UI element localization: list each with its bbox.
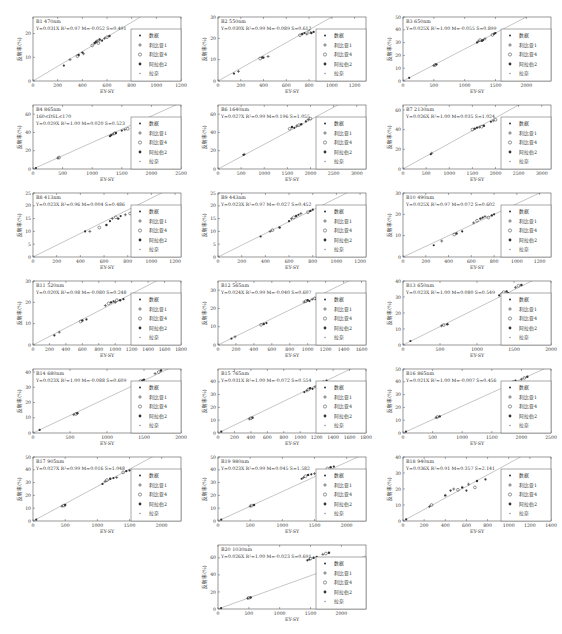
y-axis-label: 反射率(%)	[386, 301, 393, 324]
x-tick-label: 1500	[467, 171, 479, 176]
panel-title: B4 865nm	[36, 107, 61, 112]
legend-label: 数据	[149, 208, 159, 215]
y-tick-label: 0	[213, 343, 216, 348]
legend-label: 利比亚1	[334, 218, 352, 225]
legend-label: 利比亚1	[149, 394, 167, 401]
x-tick-label: 1000	[302, 347, 314, 352]
x-tick-label: 2000	[341, 523, 353, 528]
legend-star-icon	[324, 63, 327, 66]
data-point	[288, 220, 290, 222]
chart-panel: 02004006008001000120001020EY-SY反射率(%)B1 …	[16, 0, 187, 94]
y-tick-label: 30	[210, 392, 216, 397]
data-point	[483, 215, 486, 218]
data-point	[77, 54, 79, 56]
x-tick-label: 1000	[471, 347, 483, 352]
legend-label: 利比亚1	[334, 130, 352, 137]
data-point	[409, 340, 411, 342]
panel-title: B15 765nm	[221, 371, 249, 376]
data-point	[303, 32, 305, 34]
data-point	[483, 124, 485, 126]
data-point	[476, 42, 478, 44]
x-tick-label: 1200	[175, 83, 187, 88]
legend-dot-icon	[509, 387, 511, 389]
data-point	[303, 391, 305, 393]
x-tick-label: 0	[217, 435, 220, 440]
legend-small-dot-icon	[509, 73, 510, 74]
legend-label: 利比亚4	[334, 51, 352, 58]
panel-subtitle: 160≤DSL≤170	[36, 114, 71, 119]
data-point	[278, 226, 280, 228]
y-tick-label: 40	[395, 27, 401, 32]
y-axis-label: 反射率(%)	[386, 389, 393, 412]
x-tick-label: 1000	[331, 259, 343, 264]
legend-label: 利比亚1	[334, 306, 352, 313]
data-point	[85, 318, 87, 320]
data-point	[265, 322, 267, 324]
x-tick-label: 200	[45, 347, 54, 352]
legend-small-dot-icon	[509, 161, 510, 162]
y-axis-label: 反射率(%)	[386, 477, 393, 500]
legend-label: 利比亚4	[334, 403, 352, 410]
legend-label: 阿拉伯2	[334, 149, 352, 156]
legend-label: 拉奈	[149, 422, 159, 429]
legend-label: 数据	[519, 472, 529, 479]
data-point	[526, 375, 528, 377]
data-point	[473, 486, 476, 489]
legend-label: 数据	[519, 296, 529, 303]
legend-label: 数据	[149, 32, 159, 39]
legend-label: 数据	[334, 560, 344, 567]
data-point	[115, 132, 117, 134]
legend-label: 阿拉伯2	[334, 61, 352, 68]
y-tick-label: 15	[210, 216, 216, 221]
y-tick-label: 10	[25, 229, 31, 234]
chart-panel: 0200400600800100012000510152025EY-SY反射率(…	[201, 183, 366, 270]
chart-panel: 0200400600800100012000510152025EY-SY反射率(…	[16, 183, 181, 270]
legend-small-dot-icon	[324, 337, 325, 338]
x-axis-label: EY-SY	[470, 89, 485, 94]
x-tick-label: 0	[217, 347, 220, 352]
x-tick-label: 200	[232, 347, 241, 352]
x-tick-label: 500	[436, 347, 445, 352]
chart-panel: 0500100015002000010203040EY-SY反射率(%)B14 …	[16, 363, 187, 446]
legend-star-icon	[139, 239, 142, 242]
data-point	[35, 167, 37, 169]
x-tick-label: 600	[462, 523, 471, 528]
chart-panel: 05001000150020000204060EY-SY反射率(%)B20 10…	[201, 545, 366, 622]
legend-small-dot-icon	[139, 425, 140, 426]
data-point	[308, 300, 310, 302]
y-tick-label: 20	[25, 493, 31, 498]
y-axis-label: 反射率(%)	[201, 37, 208, 60]
legend-label: 利比亚4	[519, 403, 537, 410]
data-point	[107, 302, 110, 305]
legend-label: 拉奈	[519, 70, 529, 77]
legend-small-dot-icon	[139, 249, 140, 250]
legend-label: 拉奈	[334, 158, 344, 165]
legend-star-icon	[324, 503, 327, 506]
legend-label: 阿拉伯2	[149, 325, 167, 332]
data-point	[160, 369, 162, 371]
panel-title: B19 980nm	[221, 459, 249, 464]
y-tick-label: 10	[210, 506, 216, 511]
legend-label: 利比亚1	[519, 130, 537, 137]
fit-equation: Y=0.026X R²=1.00 M=0.035 S=1.024	[405, 114, 495, 119]
data-point	[114, 216, 117, 219]
legend-star-icon	[324, 239, 327, 242]
x-tick-label: 500	[237, 171, 246, 176]
fit-equation: Y=0.036X R²=0.91 M=0.357 S=2.141	[405, 466, 495, 471]
y-axis-label: 反射率(%)	[16, 125, 23, 148]
panel-title: B7 2130nm	[406, 107, 434, 112]
x-axis-label: EY-SY	[100, 265, 115, 270]
data-point	[122, 298, 124, 300]
data-point	[64, 504, 66, 506]
data-point	[461, 230, 463, 232]
x-tick-label: 0	[402, 171, 405, 176]
legend-dot-icon	[139, 123, 141, 125]
data-point	[305, 120, 307, 122]
legend-small-dot-icon	[509, 513, 510, 514]
x-tick-label: 400	[78, 83, 87, 88]
chart-panel: 0500100015002000250030000204060EY-SY反射率(…	[386, 87, 551, 182]
fit-equation: Y=0.023X R²=0.97 M=-0.027 S=0.452	[220, 202, 312, 207]
legend-label: 数据	[334, 32, 344, 39]
x-tick-label: 500	[428, 435, 437, 440]
y-tick-label: 20	[210, 405, 216, 410]
